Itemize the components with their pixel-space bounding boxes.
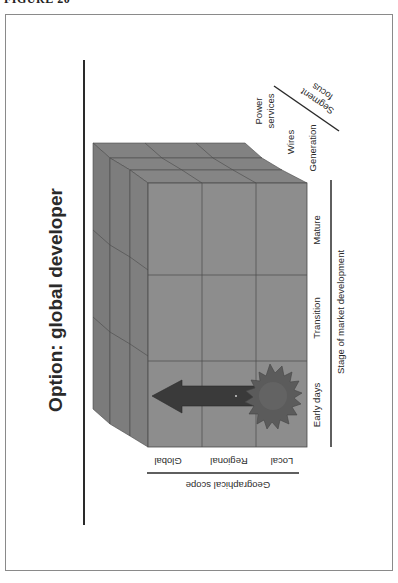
- tick-early-days: Early days: [311, 383, 322, 428]
- tick-power: Power: [253, 98, 264, 125]
- tick-global: Global: [154, 456, 181, 467]
- tick-mature: Mature: [311, 215, 322, 245]
- svg-text:services: services: [265, 93, 276, 128]
- tick-transition: Transition: [311, 297, 322, 338]
- tick-regional: Regional: [210, 456, 248, 467]
- segment-focus-label: Segment focus: [296, 76, 342, 117]
- tick-generation: Generation: [307, 124, 318, 171]
- geo-scope-label: Geographical scope: [186, 480, 271, 491]
- tick-local: Local: [271, 456, 294, 467]
- diagram-title: Option: global developer: [45, 188, 66, 412]
- market-stage-label: Stage of market development: [335, 250, 346, 374]
- svg-text:Power: Power: [253, 98, 264, 125]
- tick-wires: Wires: [285, 130, 296, 155]
- diagram-canvas: Option: global developer: [0, 0, 398, 583]
- tick-services: services: [265, 93, 276, 128]
